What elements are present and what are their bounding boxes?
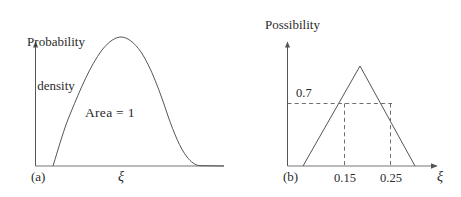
panel-b-level-label: 0.7 — [296, 86, 312, 100]
panel-b-tag: (b) — [283, 170, 298, 185]
panel-a-y-axis-title-line2: density — [6, 79, 106, 94]
figure-container: Probability density Area = 1 (a) ξ Possi… — [0, 0, 461, 197]
panel-a-tag: (a) — [31, 170, 45, 185]
panel-b-x-axis-label: ξ — [437, 169, 443, 185]
panel-b-tick-label-1: 0.25 — [371, 171, 411, 185]
panel-b-y-axis-title: Possibility — [265, 18, 320, 33]
panel-b-group — [288, 42, 438, 166]
panel-a-area-annotation: Area = 1 — [85, 105, 135, 120]
panel-b-possibility-triangle — [303, 66, 415, 166]
panel-a-x-axis-label: ξ — [118, 169, 124, 185]
panel-a-y-axis-title-line1: Probability — [6, 35, 106, 50]
panel-b-tick-label-0: 0.15 — [325, 171, 365, 185]
